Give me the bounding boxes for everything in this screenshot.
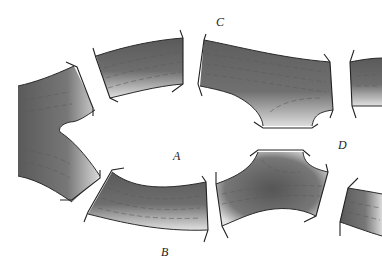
bottom-middle-junction (216, 150, 328, 238)
top-right-stub (350, 50, 382, 118)
region-label-d: D (338, 139, 347, 151)
road-network-diagram: C A D B (0, 0, 382, 273)
region-label-a: A (173, 150, 180, 162)
bottom-left-bridge-road (84, 168, 208, 242)
top-middle-junction (198, 34, 333, 128)
top-left-bridge-road (93, 30, 183, 102)
region-label-b: B (161, 246, 168, 258)
region-label-c: C (216, 16, 224, 28)
bottom-right-stub (340, 178, 382, 236)
left-junction (18, 62, 100, 202)
